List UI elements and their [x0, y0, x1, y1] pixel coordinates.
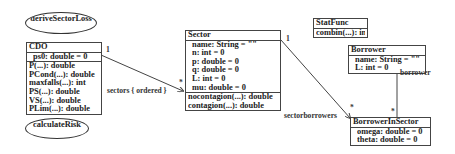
attribute: p: double = 0 — [192, 58, 278, 67]
attribute: theta: double = 0 — [357, 136, 428, 145]
multiplicity-cdo-end: 1 — [106, 45, 110, 54]
operation: combin(...): int — [316, 29, 365, 38]
operations-section: nocontagion(...): double contagion(...):… — [186, 93, 280, 110]
operation: PS(...): double — [29, 88, 99, 97]
attribute: mu: double = 0 — [192, 84, 278, 93]
usecase-label: calculateRisk — [33, 120, 81, 129]
role-sectorborrowers: sectorborrowers — [284, 111, 337, 120]
attribute: q: double = 0 — [192, 66, 278, 75]
attribute: name: String = "" — [355, 56, 423, 65]
class-name: CDO — [27, 43, 101, 53]
class-cdo[interactable]: CDO ps0: double = 0 P(...): double PCond… — [26, 42, 102, 115]
attribute: ps0: double = 0 — [33, 53, 99, 62]
role-sectors: sectors { ordered } — [107, 86, 167, 95]
operation: PLim(...): double — [29, 105, 99, 114]
attribute: name: String = "" — [192, 41, 278, 50]
attributes-section: name: String = "" n: int = 0 p: double =… — [186, 41, 280, 94]
operation: contagion(...): double — [188, 102, 278, 111]
attribute: L: int = 0 — [192, 75, 278, 84]
operations-section: combin(...): int — [314, 29, 367, 38]
usecase-derive-sector-loss[interactable]: deriveSectorLoss — [25, 12, 97, 34]
class-name: StatFunc — [314, 19, 367, 29]
operation: nocontagion(...): double — [188, 93, 278, 102]
multiplicity-borrowerinsector-end: * — [350, 103, 354, 112]
operations-section: P(...): double PCond(...): double maxfal… — [27, 62, 101, 114]
usecase-calculate-risk[interactable]: calculateRisk — [25, 118, 89, 139]
uml-class-diagram: deriveSectorLoss calculateRisk CDO ps0: … — [0, 0, 455, 154]
operation: VS(...): double — [29, 97, 99, 106]
class-statfunc[interactable]: StatFunc combin(...): int — [313, 18, 368, 38]
attributes-section: ps0: double = 0 — [27, 53, 101, 63]
multiplicity-sector-source: 1 — [286, 34, 290, 43]
multiplicity-sector-end: * — [179, 78, 183, 87]
attribute: omega: double = 0 — [357, 128, 428, 137]
role-borrower: borrower — [400, 68, 431, 77]
class-name: Sector — [186, 31, 280, 41]
attribute: n: int = 0 — [192, 49, 278, 58]
attributes-section: omega: double = 0 theta: double = 0 — [351, 128, 430, 145]
assoc-sector-borrowerinsector — [281, 40, 350, 118]
usecase-label: deriveSectorLoss — [30, 14, 91, 23]
operation: maxfalls(...): int — [29, 79, 99, 88]
operation: P(...): double — [29, 62, 99, 71]
class-name: Borrower — [349, 46, 425, 56]
multiplicity-borrower-assoc: * — [391, 107, 395, 116]
operation: PCond(...): double — [29, 71, 99, 80]
class-name: BorrowerInSector — [351, 118, 430, 128]
class-borrowerinsector[interactable]: BorrowerInSector omega: double = 0 theta… — [350, 117, 431, 146]
class-sector[interactable]: Sector name: String = "" n: int = 0 p: d… — [185, 30, 281, 111]
